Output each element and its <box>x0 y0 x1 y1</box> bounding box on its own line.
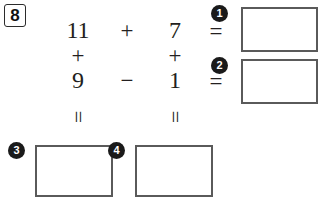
worksheet-canvas: 8 11 + 7 = + + = 9 − 1 = = 1 2 3 4 <box>0 0 323 207</box>
operator-column2: + <box>156 44 194 67</box>
operand-row3-right: 1 <box>156 68 194 92</box>
step-badge-4: 4 <box>108 142 125 159</box>
step-badge-1: 1 <box>211 5 228 22</box>
step-badge-2: 2 <box>211 57 228 74</box>
operand-row3-left: 9 <box>58 68 98 92</box>
answer-box-1[interactable] <box>241 7 318 52</box>
answer-box-4[interactable] <box>135 145 213 197</box>
operator-row3: − <box>108 69 146 92</box>
operand-row1-right: 7 <box>156 18 194 42</box>
answer-box-3[interactable] <box>35 145 113 197</box>
step-badge-3: 3 <box>8 142 25 159</box>
equals-column1: = <box>67 109 89 125</box>
operator-row1: + <box>108 19 146 42</box>
answer-box-2[interactable] <box>241 59 318 104</box>
operand-row1-left: 11 <box>58 18 98 42</box>
operator-column1: + <box>58 44 98 67</box>
equals-column2: = <box>164 109 186 125</box>
equals-row1: = <box>200 20 232 43</box>
problem-number-badge: 8 <box>4 4 26 27</box>
